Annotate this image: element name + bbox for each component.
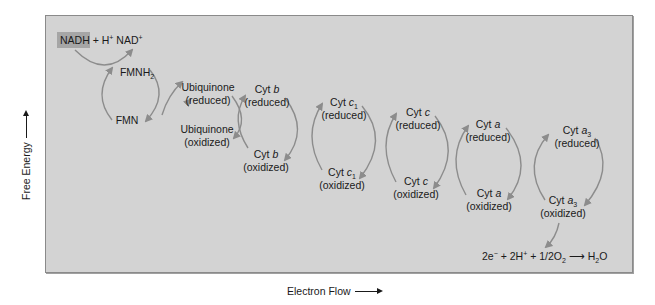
cyt-letter: a xyxy=(494,118,500,130)
cyt-prefix: Cyt xyxy=(477,187,496,199)
label-cytc1-oxidized: Cyt c1(oxidized) xyxy=(319,166,365,192)
right-arrow-icon xyxy=(355,291,381,292)
cyt-prefix: Cyt xyxy=(549,194,568,206)
free-energy-label: Free Energy xyxy=(20,142,32,200)
cyt-letter: c xyxy=(425,106,430,118)
cyt-state: (oxidized) xyxy=(540,207,586,220)
cyt-state: (oxidized) xyxy=(466,200,512,213)
cyt-prefix: Cyt xyxy=(328,166,347,178)
ubiquinone-name: Ubiquinone xyxy=(181,81,234,94)
label-cyta-oxidized: Cyt a(oxidized) xyxy=(466,187,512,213)
cyt-state: (reduced) xyxy=(245,96,290,109)
ubiquinone-state: (oxidized) xyxy=(180,136,233,149)
water-formation-equation: 2e− + 2H+ + 1/2O2 ⟶ H2O xyxy=(482,250,607,262)
water-o: O xyxy=(599,250,607,262)
label-cytc-reduced: Cyt c(reduced) xyxy=(396,106,441,132)
fmn-name: FMN xyxy=(116,114,139,126)
cyt-state: (oxidized) xyxy=(393,188,439,201)
cyt-prefix: Cyt xyxy=(563,124,582,136)
label-cyta-reduced: Cyt a(reduced) xyxy=(466,118,511,144)
arrow-nadh-to-nad xyxy=(75,50,132,65)
cyt-letter: a xyxy=(495,187,501,199)
label-cyta3-reduced: Cyt a3(reduced) xyxy=(555,124,600,150)
electrons: 2e xyxy=(482,250,494,262)
x-axis-label: Electron Flow xyxy=(287,285,381,297)
cyt-letter: c xyxy=(423,175,428,187)
arrow-to-cyta3-reduced xyxy=(534,135,548,200)
cyt-prefix: Cyt xyxy=(476,118,495,130)
cyt-prefix: Cyt xyxy=(406,106,425,118)
label-cyta3-oxidized: Cyt a3(oxidized) xyxy=(540,194,586,220)
cyt-state: (oxidized) xyxy=(243,161,289,174)
arrow-to-water xyxy=(546,223,559,247)
cyt-state: (reduced) xyxy=(555,137,600,150)
reaction-arrow-icon: ⟶ xyxy=(566,250,588,262)
label-cytb-reduced: Cyt b(reduced) xyxy=(245,83,290,109)
fmnh2-name: FMNH xyxy=(120,66,150,78)
cyt-state: (reduced) xyxy=(396,119,441,132)
cyt-state: (oxidized) xyxy=(319,179,365,192)
fmnh2-sub: 2 xyxy=(150,73,154,80)
arrow-to-ubiquinone-reduced xyxy=(162,82,182,115)
label-cytc1-reduced: Cyt c1(reduced) xyxy=(322,96,367,122)
cyt-letter: b xyxy=(273,83,279,95)
label-ubiquinone-oxidized: Ubiquinone(oxidized) xyxy=(180,123,233,149)
cyt-state: (reduced) xyxy=(466,131,511,144)
y-axis-label: Free Energy xyxy=(20,112,32,200)
cyt-prefix: Cyt xyxy=(254,148,273,160)
label-cytb-oxidized: Cyt b(oxidized) xyxy=(243,148,289,174)
electron-flow-label: Electron Flow xyxy=(287,285,351,297)
ubiquinone-name: Ubiquinone xyxy=(180,123,233,136)
up-arrow-icon xyxy=(26,112,27,138)
cyt-prefix: Cyt xyxy=(330,96,349,108)
cyt-letter: b xyxy=(272,148,278,160)
ubiquinone-state: (reduced) xyxy=(181,94,234,107)
arrow-fmn-to-fmnh2 xyxy=(102,68,112,120)
oxygen: + 1/2O xyxy=(527,250,562,262)
label-ubiquinone-reduced: Ubiquinone(reduced) xyxy=(181,81,234,107)
protons: + 2H xyxy=(498,250,523,262)
label-cytc-oxidized: Cyt c(oxidized) xyxy=(393,175,439,201)
cyt-prefix: Cyt xyxy=(255,83,274,95)
label-fmnh2: FMNH2 xyxy=(120,66,154,79)
label-fmn: FMN xyxy=(116,114,139,127)
arrow-to-cytc1-reduced xyxy=(312,104,322,170)
arrow-to-cytc-reduced xyxy=(386,114,396,182)
cyt-prefix: Cyt xyxy=(404,175,423,187)
cyt-state: (reduced) xyxy=(322,109,367,122)
